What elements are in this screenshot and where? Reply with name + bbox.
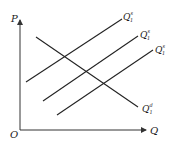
demand-label: Qd1 — [142, 102, 153, 115]
supply-demand-diagram: P Q O Qs1Qs1Qs1Qd1 — [0, 0, 181, 144]
supply-2-curve — [43, 36, 138, 101]
supply-2-label: Qs1 — [140, 28, 150, 41]
demand-curve — [36, 37, 138, 107]
supply-3-label: Qs1 — [155, 43, 165, 56]
curves-group: Qs1Qs1Qs1Qd1 — [26, 10, 165, 115]
supply-1-curve — [26, 19, 122, 82]
x-axis-label: Q — [150, 125, 158, 136]
supply-1-label: Qs1 — [123, 10, 133, 23]
supply-3-curve — [57, 50, 153, 115]
y-axis-label: P — [10, 13, 18, 24]
origin-label: O — [10, 129, 18, 140]
